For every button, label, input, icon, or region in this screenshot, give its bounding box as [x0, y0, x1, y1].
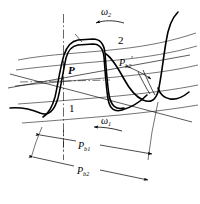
pb1-dimension	[36, 102, 158, 154]
pb2-dimension	[31, 132, 152, 180]
label-omega-2: ω2	[101, 7, 111, 17]
omega1-arrow	[94, 127, 122, 131]
gear-meshing-figure: ω2 ω1 2 1 P Pb2′ Pb1 Pb2	[0, 0, 200, 204]
label-omega-1: ω1	[101, 116, 111, 126]
gear-one-tooth-profile	[10, 44, 147, 114]
label-gear-one: 1	[69, 103, 75, 114]
label-base-pitch-2-prime: Pb2′	[119, 56, 133, 68]
omega2-arrow	[96, 21, 124, 23]
figure-drawing	[0, 0, 200, 204]
label-pitch-point: P	[68, 65, 75, 76]
label-base-pitch-2: Pb2	[77, 166, 89, 176]
label-base-pitch-1: Pb1	[78, 141, 90, 151]
label-gear-two: 2	[118, 35, 124, 46]
